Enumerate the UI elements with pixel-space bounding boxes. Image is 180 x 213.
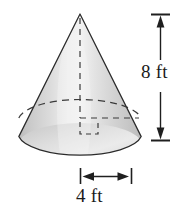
cone-highlight: [57, 32, 91, 188]
height-dimension-label: 8 ft: [141, 62, 168, 81]
cone-figure-container: 8 ft 4 ft: [0, 0, 180, 213]
diameter-dimension: [81, 168, 132, 184]
diameter-left-arrowhead: [83, 172, 95, 181]
diameter-right-arrowhead: [118, 172, 130, 181]
diameter-dimension-label: 4 ft: [76, 186, 103, 205]
cone-figure-svg: [0, 0, 180, 213]
height-up-arrowhead: [157, 16, 165, 28]
height-down-arrowhead: [157, 128, 165, 140]
